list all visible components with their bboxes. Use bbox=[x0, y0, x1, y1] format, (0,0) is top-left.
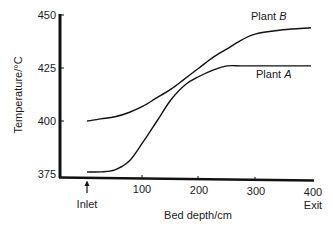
plant-a-line bbox=[87, 66, 311, 172]
exit-label: Exit bbox=[304, 199, 322, 211]
x-tick-label: 200 bbox=[190, 184, 208, 196]
x-tick-label: 400 bbox=[304, 186, 322, 198]
x-axis bbox=[59, 178, 314, 181]
chart: 450 425 400 375 100 200 300 400 Inlet Ex… bbox=[0, 0, 333, 228]
y-tick-label: 425 bbox=[38, 62, 56, 74]
inlet-label: Inlet bbox=[77, 198, 98, 210]
y-tick-label: 375 bbox=[38, 168, 56, 180]
inlet-arrow-icon bbox=[85, 181, 90, 194]
y-tick-label: 400 bbox=[38, 115, 56, 127]
y-axis-title: Temperature/°C bbox=[12, 56, 24, 133]
y-tick-label: 450 bbox=[38, 9, 56, 21]
x-tick-label: 100 bbox=[133, 183, 151, 195]
plant-b-label: Plant B bbox=[251, 10, 286, 22]
plant-a-label: Plant A bbox=[256, 68, 291, 80]
x-tick-label: 300 bbox=[247, 185, 265, 197]
x-axis-title: Bed depth/cm bbox=[164, 209, 232, 221]
